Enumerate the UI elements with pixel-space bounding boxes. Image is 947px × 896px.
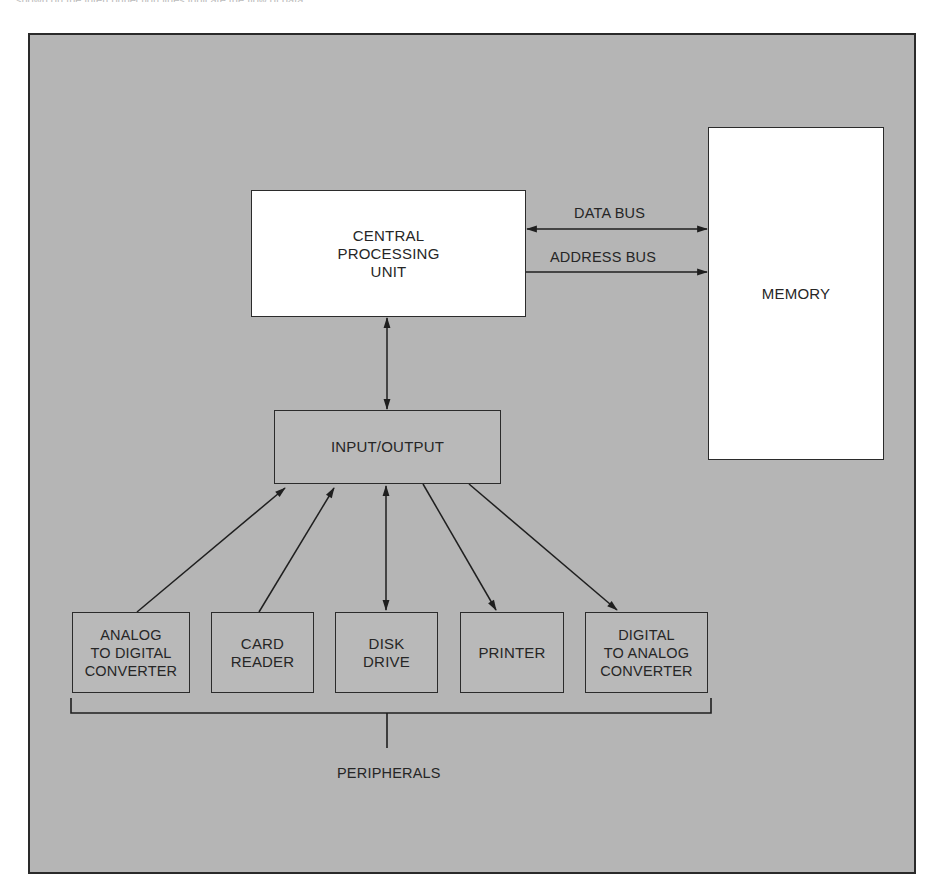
io-box: INPUT/OUTPUT <box>274 410 501 484</box>
cpu-label: CENTRAL PROCESSING UNIT <box>337 227 439 281</box>
card-reader-to-io-arrow <box>259 488 334 612</box>
io-to-dac-arrow <box>469 484 617 610</box>
peripheral-disk-drive-box: DISK DRIVE <box>335 612 438 693</box>
peripheral-dac-label: DIGITAL TO ANALOG CONVERTER <box>600 626 693 680</box>
peripherals-bracket <box>71 698 711 713</box>
adc-to-io-arrow <box>137 488 285 612</box>
memory-box: MEMORY <box>708 127 884 460</box>
io-label: INPUT/OUTPUT <box>331 438 444 456</box>
peripheral-card-reader-box: CARD READER <box>211 612 314 693</box>
peripheral-dac-box: DIGITAL TO ANALOG CONVERTER <box>585 612 708 693</box>
peripheral-printer-box: PRINTER <box>460 612 564 693</box>
peripheral-card-reader-label: CARD READER <box>231 635 295 671</box>
peripheral-adc-label: ANALOG TO DIGITAL CONVERTER <box>85 626 178 680</box>
io-to-printer-arrow <box>423 484 496 610</box>
peripheral-printer-label: PRINTER <box>478 644 545 662</box>
data-bus-label: DATA BUS <box>574 205 645 221</box>
memory-label: MEMORY <box>762 285 830 303</box>
cpu-box: CENTRAL PROCESSING UNIT <box>251 190 526 317</box>
peripherals-group-label: PERIPHERALS <box>337 765 441 781</box>
peripheral-disk-drive-label: DISK DRIVE <box>363 635 410 671</box>
address-bus-label: ADDRESS BUS <box>550 249 656 265</box>
peripheral-adc-box: ANALOG TO DIGITAL CONVERTER <box>72 612 190 693</box>
